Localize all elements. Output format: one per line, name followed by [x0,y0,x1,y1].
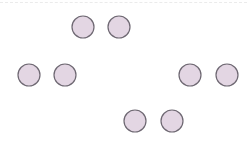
node-circle [54,64,76,86]
middle-left-pair [18,64,76,86]
bottom-pair [124,110,183,132]
node-circle [161,110,183,132]
top-pair [72,16,130,38]
node-circle [108,16,130,38]
node-circle [72,16,94,38]
node-circle [179,64,201,86]
node-circle [124,110,146,132]
node-diagram [0,0,247,141]
node-circle [18,64,40,86]
middle-right-pair [179,64,238,86]
node-circle [216,64,238,86]
